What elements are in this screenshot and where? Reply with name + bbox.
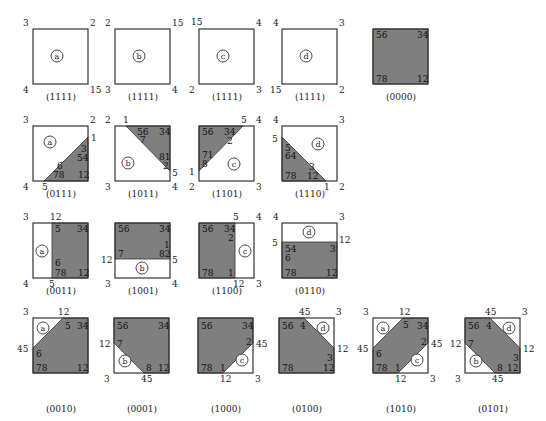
tile-b-1111: b21534(1111) [115,29,170,84]
tile-c-1111: c15423(1111) [199,29,254,84]
corner-label: 3 [255,375,261,384]
tile-caption: (0111) [26,190,96,199]
inner-label: 7 [118,250,124,259]
corner-label: 3 [339,116,345,125]
tile-shape: c [199,29,254,84]
inner-label: 6 [376,350,382,359]
tile-caption: (0100) [272,405,342,414]
corner-label: 15 [191,18,202,27]
inner-label: 34 [417,322,428,331]
inner-label: 12 [326,269,337,278]
tile-caption: (1110) [275,190,345,199]
inner-label: 2 [227,137,233,146]
corner-label: 12 [395,375,406,384]
tile-0111: a3214535467812(0111) [33,126,88,181]
region-letter: c [415,356,420,365]
inner-label: 82 [159,250,170,259]
tile-0011: a3124553467812(0011) [33,223,88,278]
corner-label: 3 [455,375,461,384]
inner-label: 56 [282,322,293,331]
inner-label: 56 [202,128,213,137]
corner-label: 12 [101,256,112,265]
tile-caption: (0001) [107,405,177,414]
corner-label: 3 [522,308,528,317]
tile-a-1111: a32415(1111) [33,29,88,84]
corner-label: 4 [273,116,279,125]
inner-label: 64 [285,152,296,161]
tile-caption: (1011) [108,190,178,199]
corner-label: 4 [273,19,279,28]
inner-label: 6 [285,254,291,263]
corner-label: 45 [431,340,442,349]
corner-label: 5 [172,256,178,265]
corner-label: 4 [256,213,262,222]
corner-label: 12 [99,340,110,349]
region-letter: b [122,357,127,366]
inner-label: 34 [159,128,170,137]
region-letter: b [473,357,478,366]
corner-label: 12 [337,345,348,354]
inner-label: 12 [307,172,318,181]
tile-1100: c5412356342781(1100) [199,223,254,278]
inner-label: 78 [201,364,212,373]
tile-0100: d4531256437812(0100) [279,318,334,373]
inner-label: 1 [228,269,234,278]
inner-label: 12 [507,364,518,373]
inner-label: 78 [53,171,64,180]
corner-label: 5 [172,169,178,178]
corner-label: 2 [90,116,96,125]
region-letter: d [315,140,320,149]
tile-shape: d [282,29,337,84]
inner-label: 34 [417,31,428,40]
corner-label: 5 [233,213,239,222]
corner-label: 45 [299,308,310,317]
region-letter: a [48,138,53,147]
region-letter: c [221,52,226,61]
inner-label: 78 [376,75,387,84]
tile-caption: (1111) [192,93,262,102]
inner-label: 4 [300,322,306,331]
tile-caption: (0110) [275,287,345,296]
corner-label: 3 [104,375,110,384]
inner-label: 3 [513,354,519,363]
tile-0010: a3124553467812(0010) [33,318,88,373]
inner-label: 78 [55,269,66,278]
region-letter: a [41,324,46,333]
tile-1000: c4512356342781(1000) [198,318,253,373]
corner-label: 12 [220,375,231,384]
inner-label: 8 [202,160,208,169]
inner-label: 4 [486,322,492,331]
region-letter: c [232,160,237,169]
inner-label: 7 [468,340,474,349]
tile-shape: a [33,29,88,84]
tile-0000: 56347812(0000) [373,29,428,84]
inner-label: 8 [497,364,503,373]
inner-label: 56 [201,322,212,331]
region-letter: d [320,324,325,333]
region-letter: b [136,52,141,61]
inner-label: 78 [282,364,293,373]
inner-label: 12 [417,75,428,84]
tile-caption: (0011) [26,287,96,296]
tile-1110: d4351256431278(1110) [282,126,337,181]
tile-0101: bd453121234556473812(0101) [465,318,520,373]
inner-label: 2 [163,162,169,171]
corner-label: 2 [90,19,96,28]
inner-label: 78 [285,269,296,278]
corner-label: 12 [58,308,69,317]
corner-label: 45 [17,345,28,354]
inner-label: 12 [77,364,88,373]
inner-label: 2 [246,338,252,347]
corner-label: 3 [430,375,436,384]
tile-caption: (0101) [458,405,528,414]
inner-label: 3 [327,354,333,363]
region-letter: b [125,159,130,168]
corner-label: 3 [336,308,342,317]
corner-label: 1 [91,134,97,143]
corner-label: 3 [339,213,345,222]
tile-caption: (1111) [275,93,345,102]
inner-label: 56 [117,322,128,331]
region-letter: c [243,247,248,256]
region-letter: a [55,52,60,61]
inner-label: 5 [65,322,71,331]
